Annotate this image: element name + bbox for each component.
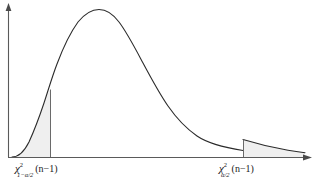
y-axis-arrow-icon bbox=[6, 3, 12, 11]
chi-superscript-lower: 2 bbox=[20, 161, 23, 168]
chi-argument-upper: (n−1) bbox=[232, 163, 254, 174]
lower-critical-value-label: χ21−α/2(n−1) bbox=[15, 163, 62, 177]
chi-square-plot bbox=[0, 0, 313, 188]
chi-subscript-lower: 1−α/2 bbox=[17, 171, 33, 178]
chi-argument-lower: (n−1) bbox=[35, 163, 57, 174]
lower-tail-shaded-region bbox=[12, 90, 50, 158]
chi-square-distribution-figure: χ21−α/2(n−1) χ2α/2(n−1) bbox=[0, 0, 313, 188]
chi-subscript-upper: α/2 bbox=[221, 171, 229, 178]
upper-critical-value-label: χ2α/2(n−1) bbox=[219, 163, 258, 177]
chi-superscript-upper: 2 bbox=[224, 161, 227, 168]
x-axis-arrow-icon bbox=[303, 155, 312, 161]
